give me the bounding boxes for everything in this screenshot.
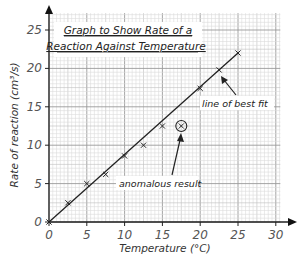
x-tick-label: 10 (117, 228, 133, 242)
title-line-2: Reaction Against Temperature (46, 40, 205, 52)
y-axis-title: Rate of reaction (cm³/s) (8, 63, 20, 188)
y-tick-label: 0 (34, 215, 42, 229)
y-tick-label: 25 (27, 23, 42, 37)
x-tick-label: 0 (45, 228, 53, 242)
x-axis-title: Temperature (°C) (119, 242, 210, 254)
y-tick-label: 15 (27, 100, 42, 114)
x-tick-label: 15 (155, 228, 170, 242)
chart-title: Graph to Show Rate of a Reaction Against… (46, 22, 205, 57)
title-line-1: Graph to Show Rate of a (64, 24, 193, 36)
annotation-text-anomalous: anomalous result (119, 178, 203, 189)
rate-temperature-chart: 0510152025300510152025 Graph to Show Rat… (0, 0, 300, 263)
x-tick-label: 30 (268, 228, 284, 242)
x-tick-label: 25 (230, 228, 245, 242)
y-axis-arrow-icon (45, 5, 53, 14)
y-tick-label: 10 (27, 138, 43, 152)
annotation-text-best-fit: line of best fit (202, 98, 269, 109)
x-axis-arrow-icon (288, 218, 297, 226)
y-tick-label: 5 (34, 177, 42, 191)
x-tick-label: 20 (193, 228, 209, 242)
x-tick-label: 5 (83, 228, 91, 242)
annotation-line-of-best-fit: line of best fit (200, 76, 274, 110)
y-tick-label: 20 (27, 61, 43, 75)
